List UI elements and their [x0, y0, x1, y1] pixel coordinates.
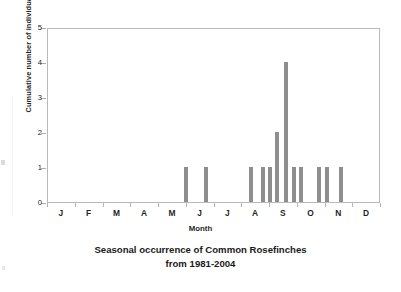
x-tick-label-1: F — [78, 208, 100, 218]
x-tick-label-4: M — [161, 208, 183, 218]
x-tick-mark — [380, 203, 381, 207]
bar — [317, 167, 321, 202]
x-tick-mark — [269, 203, 270, 207]
x-tick-label-0: J — [50, 208, 72, 218]
x-tick-mark — [103, 203, 104, 207]
x-tick-mark — [186, 203, 187, 207]
figure-seasonal-occurrence: Cumulative number of individuals 012345 … — [0, 0, 401, 292]
bar — [275, 132, 279, 202]
bar — [184, 167, 188, 202]
scan-artifact-edge-line — [12, 96, 13, 216]
x-tick-mark — [241, 203, 242, 207]
x-tick-label-8: S — [272, 208, 294, 218]
scan-artifact-left-upper — [1, 160, 5, 165]
caption-line-2: from 1981-2004 — [0, 257, 401, 271]
x-tick-mark — [297, 203, 298, 207]
bar — [339, 167, 343, 202]
x-tick-label-7: A — [244, 208, 266, 218]
y-axis-title: Cumulative number of individuals — [24, 0, 33, 137]
x-tick-mark — [214, 203, 215, 207]
x-tick-mark — [130, 203, 131, 207]
bar — [268, 167, 272, 202]
x-tick-mark — [352, 203, 353, 207]
x-tick-mark — [75, 203, 76, 207]
x-tick-label-11: D — [355, 208, 377, 218]
bar — [261, 167, 265, 202]
y-tick-label: 5 — [30, 24, 42, 32]
bar — [204, 167, 208, 202]
x-tick-mark — [325, 203, 326, 207]
y-tick-label: 2 — [30, 129, 42, 137]
x-tick-mark — [47, 203, 48, 207]
y-tick-label: 3 — [30, 94, 42, 102]
bars-container — [48, 29, 379, 202]
caption-line-1: Seasonal occurrence of Common Rosefinche… — [0, 243, 401, 257]
x-tick-label-3: A — [133, 208, 155, 218]
x-tick-label-6: J — [216, 208, 238, 218]
bar — [325, 167, 329, 202]
y-tick-label: 1 — [30, 164, 42, 172]
figure-caption: Seasonal occurrence of Common Rosefinche… — [0, 243, 401, 271]
bar — [284, 62, 288, 202]
x-tick-label-10: N — [327, 208, 349, 218]
y-tick-label: 0 — [30, 199, 42, 207]
x-tick-label-2: M — [105, 208, 127, 218]
plot-area — [47, 28, 380, 203]
x-tick-mark — [158, 203, 159, 207]
x-axis-title: Month — [0, 224, 401, 233]
bar — [249, 167, 253, 202]
y-tick-label: 4 — [30, 59, 42, 67]
bar — [292, 167, 296, 202]
bar — [299, 167, 303, 202]
x-tick-label-5: J — [189, 208, 211, 218]
x-tick-label-9: O — [300, 208, 322, 218]
